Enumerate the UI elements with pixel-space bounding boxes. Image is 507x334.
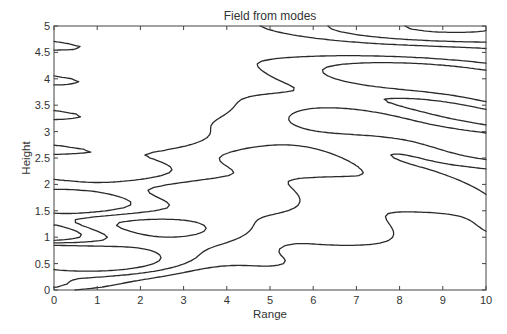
- x-tick-label: 7: [353, 294, 359, 306]
- y-tick-label: 3: [44, 126, 50, 138]
- x-tick-label: 6: [310, 294, 316, 306]
- contour-level: [54, 26, 486, 287]
- y-axis-label: Height: [20, 141, 32, 175]
- x-axis-label: Range: [253, 308, 287, 320]
- y-tick-label: 2: [44, 178, 50, 190]
- x-tick-label: 3: [181, 294, 187, 306]
- x-tick-label: 1: [94, 294, 100, 306]
- x-tick-label: 5: [267, 294, 273, 306]
- y-tick-label: 4.5: [35, 46, 50, 58]
- y-tick-label: 1.5: [35, 205, 50, 217]
- y-tick-label: 1: [44, 231, 50, 243]
- x-tick-label: 8: [397, 294, 403, 306]
- contour-chart: Field from modes 012345678910 00.511.522…: [0, 0, 507, 334]
- y-tick-label: 5: [44, 20, 50, 32]
- x-tick-label: 4: [224, 294, 230, 306]
- y-tick-label: 2.5: [35, 152, 50, 164]
- y-tick-label: 0.5: [35, 258, 50, 270]
- chart-title: Field from modes: [224, 9, 317, 23]
- y-tick-label: 0: [44, 284, 50, 296]
- x-tick-label: 2: [137, 294, 143, 306]
- contour-level: [54, 26, 486, 290]
- contour-level: [54, 26, 486, 271]
- y-tick-label: 3.5: [35, 99, 50, 111]
- x-axis-ticks: 012345678910: [51, 26, 492, 306]
- y-tick-label: 4: [44, 73, 50, 85]
- contour-lines: [54, 26, 486, 290]
- x-tick-label: 0: [51, 294, 57, 306]
- x-tick-label: 9: [440, 294, 446, 306]
- x-tick-label: 10: [480, 294, 492, 306]
